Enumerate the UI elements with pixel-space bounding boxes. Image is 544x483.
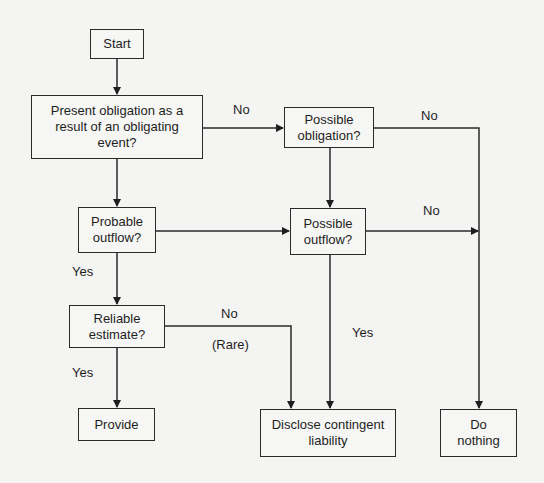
possible-outflow-yes-label: Yes <box>352 325 373 340</box>
probable-yes-label: Yes <box>72 264 93 279</box>
do-nothing-label: Do nothing <box>455 417 502 449</box>
possible-obligation-label: Possible obligation? <box>291 112 367 144</box>
present-obligation-label: Present obligation as a result of an obl… <box>48 103 186 151</box>
probable-outflow-label: Probable outflow? <box>89 214 145 246</box>
start-node-label: Start <box>103 36 130 52</box>
reliable-yes-label: Yes <box>72 365 93 380</box>
probable-outflow-node: Probable outflow? <box>78 207 156 253</box>
possible-outflow-no-label: No <box>423 203 440 218</box>
possible-obligation-node: Possible obligation? <box>284 107 374 148</box>
present-no-label: No <box>233 102 250 117</box>
do-nothing-node: Do nothing <box>440 409 517 457</box>
disclose-contingent-liability-node: Disclose contingent liability <box>260 409 396 457</box>
present-obligation-node: Present obligation as a result of an obl… <box>31 95 203 159</box>
reliable-estimate-label: Reliable estimate? <box>86 311 148 343</box>
reliable-no-label: No <box>221 306 238 321</box>
provide-label: Provide <box>94 417 138 433</box>
possible-outflow-node: Possible outflow? <box>290 208 366 255</box>
provide-node: Provide <box>78 408 155 441</box>
possible-obligation-no-label: No <box>421 108 438 123</box>
reliable-estimate-node: Reliable estimate? <box>69 305 165 348</box>
possible-outflow-label: Possible outflow? <box>301 216 355 248</box>
reliable-rare-label: (Rare) <box>212 337 249 352</box>
start-node: Start <box>90 29 144 59</box>
disclose-label: Disclose contingent liability <box>265 417 391 449</box>
